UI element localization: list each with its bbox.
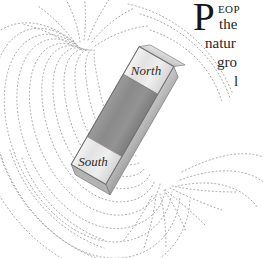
text-line-5: l xyxy=(234,74,238,89)
text-line-2: the xyxy=(219,17,237,32)
small-caps-opening: EOP xyxy=(218,3,240,15)
book-page: North South P EOP the natur gro l xyxy=(0,0,263,258)
text-line-3: natur xyxy=(205,36,236,51)
magnet-south-label: South xyxy=(78,154,108,169)
body-text-block: P EOP the natur gro l xyxy=(191,0,263,100)
drop-cap: P xyxy=(193,0,215,36)
magnet-north-label: North xyxy=(130,63,161,78)
text-line-4: gro xyxy=(217,55,237,70)
